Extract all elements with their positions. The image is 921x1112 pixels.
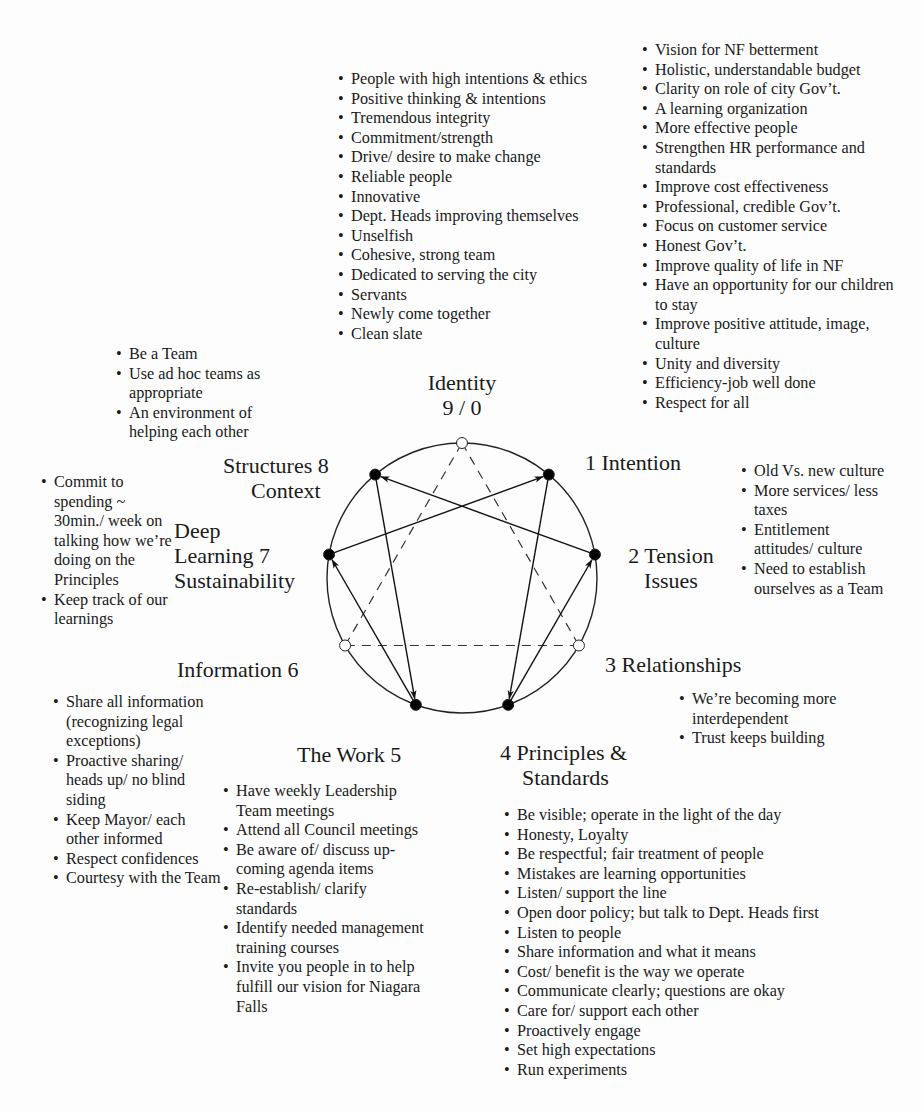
list-item: Share information and what it means	[503, 943, 921, 963]
node-point-2	[589, 549, 600, 560]
list-item: Re-establish/ clarify standards	[222, 880, 427, 919]
node-label-line: Standards	[500, 765, 660, 790]
list-item: Open door policy; but talk to Dept. Head…	[503, 904, 921, 924]
node-label-line: Information 6	[177, 657, 299, 682]
list-item: Set high expectations	[503, 1041, 921, 1061]
list-item: Vision for NF betterment	[641, 41, 896, 61]
notes-principles: Be visible; operate in the light of the …	[503, 806, 921, 1080]
list-item: Dedicated to serving the city	[337, 266, 637, 286]
list-item: Cohesive, strong team	[337, 246, 637, 266]
list-item: Newly come together	[337, 305, 637, 325]
list-item: Courtesy with the Team	[52, 869, 222, 889]
list-item: We’re becoming more interdependent	[678, 690, 898, 729]
list-item: Respect confidences	[52, 850, 222, 870]
notes-tension: Old Vs. new cultureMore services/ less t…	[740, 462, 890, 599]
list-item: Keep Mayor/ each other informed	[52, 811, 222, 850]
list-item: Innovative	[337, 188, 637, 208]
list-item: Attend all Council meetings	[222, 821, 427, 841]
list-item: Proactively engage	[503, 1022, 921, 1042]
list-item: Professional, credible Gov’t.	[641, 198, 896, 218]
node-label-line: 2 Tension	[612, 543, 730, 568]
notes-list: Share all information (recognizing legal…	[52, 693, 222, 889]
arrow-1-to-4	[509, 479, 548, 699]
list-item: Honesty, Loyalty	[503, 826, 921, 846]
list-item: Communicate clearly; questions are okay	[503, 982, 921, 1002]
list-item: Invite you people in to help fulfill our…	[222, 958, 427, 1017]
notes-identity: People with high intentions & ethicsPosi…	[337, 70, 637, 344]
node-label-relationships: 3 Relationships	[605, 652, 741, 677]
node-point-3	[573, 640, 584, 651]
list-item: Listen/ support the line	[503, 884, 921, 904]
notes-relationships: We’re becoming more interdependentTrust …	[678, 690, 898, 749]
notes-list: Vision for NF bettermentHolistic, unders…	[641, 41, 896, 413]
node-label-line: Issues	[612, 568, 730, 593]
list-item: Need to establish ourselves as a Team	[740, 560, 890, 599]
list-item: Drive/ desire to make change	[337, 148, 637, 168]
notes-intention: Vision for NF bettermentHolistic, unders…	[641, 41, 896, 413]
arrow-8-to-5	[376, 479, 415, 699]
node-point-5	[410, 699, 421, 710]
node-label-the-work: The Work 5	[297, 742, 401, 767]
list-item: Holistic, understandable budget	[641, 61, 896, 81]
list-item: Servants	[337, 286, 637, 306]
list-item: Commit to spending ~ 30min./ week on tal…	[40, 473, 175, 591]
list-item: Proactive sharing/ heads up/ no blind si…	[52, 752, 222, 811]
list-item: Trust keeps building	[678, 729, 898, 749]
node-label-line: Learning 7	[174, 543, 295, 568]
list-item: Identify needed management training cour…	[222, 919, 427, 958]
dashed-edge-6-9	[345, 443, 462, 646]
notes-list: We’re becoming more interdependentTrust …	[678, 690, 898, 749]
list-item: Honest Gov’t.	[641, 237, 896, 257]
node-label-line: Structures 8	[223, 453, 329, 478]
notes-structures: Be a TeamUse ad hoc teams as appropriate…	[115, 345, 295, 443]
dashed-edge-9-3	[462, 443, 579, 646]
node-label-information: Information 6	[177, 657, 299, 682]
notes-list: Commit to spending ~ 30min./ week on tal…	[40, 473, 175, 630]
list-item: More effective people	[641, 119, 896, 139]
list-item: Efficiency-job well done	[641, 374, 896, 394]
list-item: Improve quality of life in NF	[641, 257, 896, 277]
notes-list: Old Vs. new cultureMore services/ less t…	[740, 462, 890, 599]
node-label-line: 9 / 0	[400, 395, 524, 420]
list-item: Be aware of/ discuss up-coming agenda it…	[222, 841, 427, 880]
enneagram-nodes	[324, 438, 601, 711]
node-point-6	[340, 640, 351, 651]
list-item: Unity and diversity	[641, 355, 896, 375]
list-item: Improve positive attitude, image, cultur…	[641, 315, 896, 354]
node-label-intention: 1 Intention	[585, 450, 681, 475]
list-item: Positive thinking & intentions	[337, 90, 637, 110]
list-item: Respect for all	[641, 394, 896, 414]
list-item: Mistakes are learning opportunities	[503, 865, 921, 885]
list-item: Cost/ benefit is the way we operate	[503, 963, 921, 983]
enneagram-circle	[327, 443, 597, 713]
list-item: Dept. Heads improving themselves	[337, 207, 637, 227]
list-item: Entitlement attitudes/ culture	[740, 521, 890, 560]
node-point-9	[457, 438, 468, 449]
node-label-line: Context	[223, 478, 329, 503]
list-item: Share all information (recognizing legal…	[52, 693, 222, 752]
node-label-deep-learning: Deep Learning 7 Sustainability	[174, 518, 295, 593]
node-label-line: 3 Relationships	[605, 652, 741, 677]
list-item: Improve cost effectiveness	[641, 178, 896, 198]
node-label-line: Identity	[400, 370, 524, 395]
list-item: More services/ less taxes	[740, 482, 890, 521]
list-item: Be respectful; fair treatment of people	[503, 845, 921, 865]
node-label-tension: 2 Tension Issues	[612, 543, 730, 593]
list-item: Have an opportunity for our children to …	[641, 276, 896, 315]
list-item: Reliable people	[337, 168, 637, 188]
list-item: Strengthen HR performance and standards	[641, 139, 896, 178]
list-item: Old Vs. new culture	[740, 462, 890, 482]
list-item: People with high intentions & ethics	[337, 70, 637, 90]
node-label-line: 1 Intention	[585, 450, 681, 475]
list-item: Be visible; operate in the light of the …	[503, 806, 921, 826]
list-item: Clean slate	[337, 325, 637, 345]
list-item: Run experiments	[503, 1061, 921, 1081]
node-point-1	[543, 469, 554, 480]
list-item: Use ad hoc teams as appropriate	[115, 365, 295, 404]
notes-list: People with high intentions & ethicsPosi…	[337, 70, 637, 344]
list-item: Listen to people	[503, 924, 921, 944]
hexad-arrows	[332, 477, 592, 702]
notes-list: Have weekly Leadership Team meetingsAtte…	[222, 782, 427, 1017]
node-label-principles: 4 Principles & Standards	[500, 740, 660, 790]
node-point-7	[324, 549, 335, 560]
